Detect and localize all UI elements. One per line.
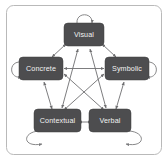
node-concrete-label: Concrete [26, 64, 56, 73]
node-visual[interactable]: Visual [64, 23, 104, 46]
diagram-figure: Visual Concrete Symbolic Contextual Verb… [0, 0, 168, 160]
node-verbal-label: Verbal [100, 116, 121, 125]
node-symbolic[interactable]: Symbolic [105, 57, 149, 80]
node-verbal[interactable]: Verbal [89, 109, 131, 132]
node-concrete[interactable]: Concrete [19, 57, 63, 80]
node-contextual[interactable]: Contextual [34, 109, 81, 132]
node-visual-label: Visual [74, 30, 94, 39]
network-diagram: Visual Concrete Symbolic Contextual Verb… [0, 0, 168, 160]
node-symbolic-label: Symbolic [112, 64, 142, 73]
node-contextual-label: Contextual [40, 116, 76, 125]
